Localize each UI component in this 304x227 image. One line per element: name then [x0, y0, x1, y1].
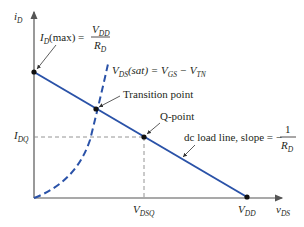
svg-text:dc load line, slope = −: dc load line, slope = −: [184, 131, 282, 143]
transition-pointer: [99, 96, 120, 107]
vdd-point: [244, 194, 249, 199]
vds-sat-label: VDS(sat) = VGS − VTN: [112, 64, 207, 79]
y-axis-label: iD: [14, 10, 23, 25]
transition-point: [93, 106, 98, 111]
vds-sat-curve: [34, 64, 108, 198]
load-line-label: dc load line, slope = − 1 RD: [184, 123, 296, 154]
svg-text:RD: RD: [280, 139, 294, 154]
id-max-label: ID(max) = VDD RD: [39, 23, 110, 54]
x-axis-label: vDS: [276, 203, 290, 218]
svg-text:ID(max) =: ID(max) =: [39, 31, 84, 46]
load-line-pointer: [183, 145, 195, 157]
load-line-diagram: iD vDS ID(max) = VDD RD VDS(sat) = VGS −…: [0, 0, 304, 227]
q-point-pointer: [147, 123, 160, 134]
q-point: [141, 134, 146, 139]
id-max-pointer: [37, 45, 56, 69]
svg-text:1: 1: [285, 123, 291, 135]
svg-text:VDD: VDD: [92, 23, 110, 38]
transition-point-label: Transition point: [123, 88, 193, 100]
id-max-point: [31, 69, 36, 74]
q-point-label: Q-point: [160, 110, 194, 122]
vdsq-label: VDSQ: [133, 203, 155, 218]
vdd-label: VDD: [238, 203, 256, 218]
svg-text:RD: RD: [93, 39, 107, 54]
idq-label: IDQ: [13, 129, 29, 144]
q-point-guides: [34, 137, 144, 198]
